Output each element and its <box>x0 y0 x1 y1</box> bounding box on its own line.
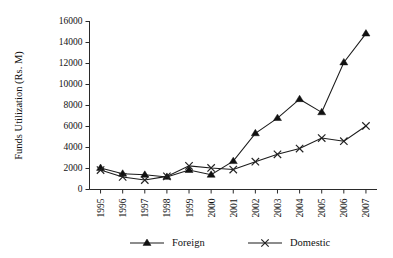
legend-label-foreign: Foreign <box>172 237 205 248</box>
x-tick-label: 2002 <box>251 198 261 217</box>
data-point-domestic-2004 <box>296 145 303 152</box>
x-tick-label: 2004 <box>295 198 305 217</box>
y-tick-label: 14000 <box>59 37 83 47</box>
x-tick-label: 2007 <box>361 198 371 217</box>
series-line-foreign <box>101 34 366 177</box>
chart-container: 0200040006000800010000120001400016000 19… <box>0 0 393 258</box>
y-tick-label: 6000 <box>64 121 83 131</box>
x-axis: 1995199619971998199920002001200220032004… <box>90 190 378 218</box>
chart-legend: ForeignDomestic <box>130 237 331 248</box>
y-axis: 0200040006000800010000120001400016000 <box>59 16 90 194</box>
y-tick-label: 2000 <box>64 163 83 173</box>
data-point-domestic-2007 <box>362 122 369 129</box>
series-layer <box>97 30 370 184</box>
data-point-foreign-2002 <box>251 129 259 135</box>
data-point-foreign-2004 <box>296 95 304 101</box>
y-tick-label: 12000 <box>59 58 83 68</box>
legend-marker-foreign <box>143 239 151 245</box>
x-tick-label: 1997 <box>140 198 150 217</box>
x-tick-label: 1998 <box>162 198 172 217</box>
x-tick-label: 2001 <box>229 198 239 217</box>
y-tick-label: 16000 <box>59 16 83 26</box>
x-tick-label: 1995 <box>96 198 106 217</box>
data-point-domestic-2002 <box>252 158 259 165</box>
data-point-foreign-1997 <box>141 171 149 177</box>
data-point-foreign-2007 <box>362 30 370 36</box>
x-tick-label: 1996 <box>118 198 128 217</box>
x-tick-label: 1999 <box>185 198 195 217</box>
y-tick-label: 10000 <box>59 79 83 89</box>
y-tick-label: 0 <box>78 184 83 194</box>
x-tick-label: 2006 <box>339 198 349 217</box>
x-tick-label: 2003 <box>273 198 283 217</box>
funds-utilization-line-chart: 0200040006000800010000120001400016000 19… <box>0 0 393 258</box>
legend-label-domestic: Domestic <box>290 237 331 248</box>
series-line-domestic <box>101 126 366 180</box>
y-tick-label: 4000 <box>64 142 83 152</box>
y-tick-label: 8000 <box>64 100 83 110</box>
x-tick-label: 2000 <box>207 198 217 217</box>
data-point-foreign-2005 <box>318 108 326 114</box>
x-tick-label: 2005 <box>317 198 327 217</box>
y-axis-title: Funds Utilization (Rs. M) <box>13 51 25 160</box>
data-point-domestic-2003 <box>274 151 281 158</box>
